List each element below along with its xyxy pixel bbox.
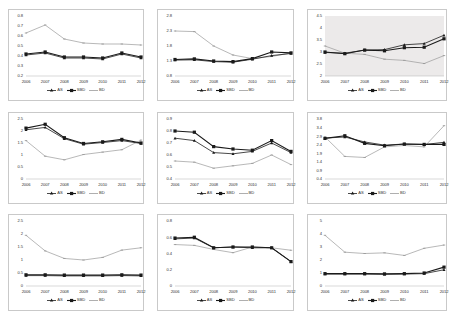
legend-item-bd[interactable]: BD xyxy=(390,298,406,303)
data-point-marker xyxy=(323,272,326,275)
chart-legend: ASSBDBD xyxy=(9,191,143,196)
legend-item-bd[interactable]: BD xyxy=(239,298,255,303)
legend-label-bd: BD xyxy=(249,191,255,195)
legend-item-as[interactable]: AS xyxy=(197,88,212,93)
legend-marker-bd-icon xyxy=(239,88,248,93)
legend-item-as[interactable]: AS xyxy=(47,191,62,196)
series-sbd xyxy=(323,37,445,55)
line-chart-4: 2.521.510.502006200720082009201020112012… xyxy=(8,112,144,204)
series-sbd xyxy=(173,50,292,63)
chart-cell-1: 0.80.70.60.50.40.30.22006200720082009201… xyxy=(0,0,151,107)
legend-item-sbd[interactable]: SBD xyxy=(368,191,386,196)
legend-label-as: AS xyxy=(358,298,363,302)
data-point-marker xyxy=(403,142,406,145)
legend-item-sbd[interactable]: SBD xyxy=(67,298,85,303)
legend-item-sbd[interactable]: SBD xyxy=(368,88,386,93)
series-bd xyxy=(324,126,445,158)
data-point-marker xyxy=(343,52,346,55)
legend-item-bd[interactable]: BD xyxy=(390,88,406,93)
data-point-marker xyxy=(270,246,273,249)
line-chart-7: 2.521.510.502006200720082009201020112012… xyxy=(8,214,144,311)
data-point-marker xyxy=(24,127,27,130)
data-point-marker xyxy=(82,142,85,145)
line-chart-2: 2.82.31.81.30.82006200720082009201020112… xyxy=(157,9,294,101)
legend-item-sbd[interactable]: SBD xyxy=(216,88,234,93)
series-bd xyxy=(174,155,292,168)
legend-item-bd[interactable]: BD xyxy=(239,191,255,196)
legend-marker-bd-icon xyxy=(239,191,248,196)
legend-item-bd[interactable]: BD xyxy=(390,191,406,196)
legend-marker-sbd-icon xyxy=(67,191,76,196)
line-chart-1: 0.80.70.60.50.40.30.22006200720082009201… xyxy=(8,9,144,101)
legend-item-sbd[interactable]: SBD xyxy=(368,298,386,303)
legend-item-as[interactable]: AS xyxy=(348,191,363,196)
data-point-marker xyxy=(24,273,27,276)
data-point-marker xyxy=(44,50,47,53)
data-point-marker xyxy=(383,49,386,52)
legend-label-as: AS xyxy=(358,88,363,92)
legend-item-as[interactable]: AS xyxy=(348,298,363,303)
legend-item-as[interactable]: AS xyxy=(197,191,212,196)
legend-label-sbd: SBD xyxy=(226,88,234,92)
series-bd xyxy=(174,31,292,59)
chart-legend: ASSBDBD xyxy=(158,298,293,303)
data-point-marker xyxy=(24,52,27,55)
legend-item-bd[interactable]: BD xyxy=(89,88,105,93)
chart-legend: ASSBDBD xyxy=(9,88,143,93)
chart-cell-5: 0.90.80.70.60.50.42006200720082009201020… xyxy=(151,107,301,210)
data-point-marker xyxy=(363,272,366,275)
line-chart-5: 0.90.80.70.60.50.42006200720082009201020… xyxy=(157,112,294,204)
series-bd xyxy=(25,25,142,45)
legend-marker-as-icon xyxy=(47,191,56,196)
data-point-marker xyxy=(120,273,123,276)
legend-label-as: AS xyxy=(207,298,212,302)
series-sbd xyxy=(24,123,142,145)
legend-item-bd[interactable]: BD xyxy=(89,298,105,303)
legend-marker-as-icon xyxy=(197,191,206,196)
data-point-marker xyxy=(63,273,66,276)
legend-marker-bd-icon xyxy=(89,88,98,93)
data-point-marker xyxy=(270,139,273,142)
legend-item-as[interactable]: AS xyxy=(47,88,62,93)
legend-item-as[interactable]: AS xyxy=(47,298,62,303)
data-point-marker xyxy=(423,143,426,146)
legend-item-as[interactable]: AS xyxy=(348,88,363,93)
legend-item-sbd[interactable]: SBD xyxy=(67,191,85,196)
data-point-marker xyxy=(44,123,47,126)
legend-marker-sbd-icon xyxy=(216,191,225,196)
chart-grid: 0.80.70.60.50.40.30.22006200720082009201… xyxy=(0,0,453,321)
legend-item-sbd[interactable]: SBD xyxy=(67,88,85,93)
legend-label-as: AS xyxy=(358,191,363,195)
legend-label-as: AS xyxy=(57,88,62,92)
legend-item-bd[interactable]: BD xyxy=(239,88,255,93)
data-point-marker xyxy=(120,138,123,141)
data-point-marker xyxy=(343,134,346,137)
data-point-marker xyxy=(423,271,426,274)
legend-label-sbd: SBD xyxy=(77,191,85,195)
data-point-marker xyxy=(423,46,426,49)
data-point-marker xyxy=(231,60,234,63)
legend-label-bd: BD xyxy=(99,298,105,302)
legend-marker-as-icon xyxy=(47,88,56,93)
data-point-marker xyxy=(323,137,326,140)
legend-label-sbd: SBD xyxy=(226,191,234,195)
legend-label-sbd: SBD xyxy=(378,88,386,92)
legend-marker-bd-icon xyxy=(89,191,98,196)
legend-item-as[interactable]: AS xyxy=(197,298,212,303)
legend-item-bd[interactable]: BD xyxy=(89,191,105,196)
series-as xyxy=(174,137,293,155)
data-point-marker xyxy=(82,55,85,58)
legend-marker-sbd-icon xyxy=(216,88,225,93)
data-point-marker xyxy=(63,136,66,139)
legend-marker-sbd-icon xyxy=(67,88,76,93)
data-point-marker xyxy=(101,140,104,143)
chart-legend: ASSBDBD xyxy=(158,191,293,196)
chart-legend: ASSBDBD xyxy=(308,88,446,93)
chart-legend: ASSBDBD xyxy=(308,298,446,303)
legend-label-bd: BD xyxy=(400,88,406,92)
data-point-marker xyxy=(101,56,104,59)
legend-label-sbd: SBD xyxy=(378,298,386,302)
legend-item-sbd[interactable]: SBD xyxy=(216,298,234,303)
legend-item-sbd[interactable]: SBD xyxy=(216,191,234,196)
series-sbd xyxy=(323,134,445,147)
